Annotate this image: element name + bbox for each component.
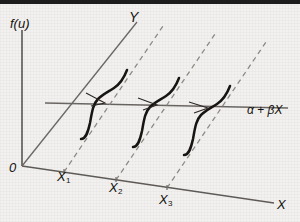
dashed-line-x2	[116, 34, 215, 180]
x-tick-label-1-base: X	[57, 169, 66, 184]
regression-beta-x: βX	[268, 103, 283, 117]
density-curve-2	[133, 78, 179, 147]
regression-alpha: α	[247, 103, 254, 117]
regression-line-label: α + βX	[247, 104, 282, 116]
x-tick-label-2: X2	[109, 181, 123, 196]
figure-canvas: f(u) Y X 0 X1 X2 X3 α + βX	[0, 0, 300, 222]
x-tick-label-3-base: X	[159, 192, 168, 207]
x-tick-label-2-sub: 2	[118, 187, 123, 196]
regression-plus: +	[254, 103, 268, 117]
x-tick-label-2-base: X	[109, 180, 118, 195]
x-axis-label: X	[277, 198, 286, 211]
density-curve-group-2	[133, 78, 179, 147]
x-tick-label-3: X3	[159, 193, 173, 208]
dashed-line-x1	[64, 26, 163, 172]
x-tick-label-3-sub: 3	[168, 199, 173, 208]
x-tick-label-1-sub: 1	[66, 176, 71, 185]
origin-label: 0	[9, 161, 16, 174]
y-axis-line	[22, 22, 137, 166]
density-curve-group-3	[184, 86, 230, 155]
top-border-rule	[0, 0, 300, 4]
y-axis-label: Y	[129, 10, 138, 24]
density-curve-3	[184, 86, 230, 155]
base-marker-2	[138, 98, 157, 110]
x-tick-label-1: X1	[57, 170, 71, 185]
density-axis-label: f(u)	[10, 17, 30, 30]
